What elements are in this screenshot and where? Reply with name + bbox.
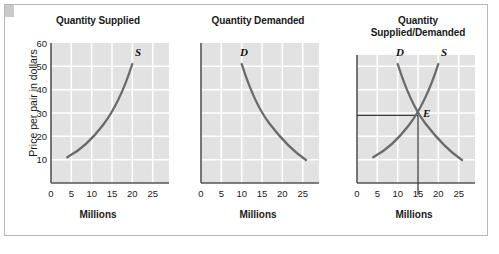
y-tick-20: 20 — [36, 131, 47, 142]
x-tick-0: 0 — [198, 188, 203, 199]
x-tick-0: 0 — [48, 188, 53, 199]
plot-area: D S E 0 5 10 15 20 25 — [335, 15, 493, 227]
x-tick-25: 25 — [453, 188, 464, 199]
x-axis-label: Millions — [179, 209, 337, 220]
x-axis-label: Millions — [335, 209, 493, 220]
x-tick-25: 25 — [297, 188, 308, 199]
panel-quantity-supplied: Quantity Supplied — [19, 15, 177, 227]
x-tick-5: 5 — [375, 188, 380, 199]
x-axis-label: Millions — [19, 209, 177, 220]
panel-quantity-demanded: Quantity Demanded — [179, 15, 337, 227]
x-tick-15: 15 — [257, 188, 268, 199]
x-tick-5: 5 — [219, 188, 224, 199]
plot-area: S 60 50 40 30 20 10 0 5 10 15 20 25 — [19, 15, 177, 227]
x-tick-10: 10 — [86, 188, 97, 199]
plot-background — [357, 55, 475, 183]
x-tick-10: 10 — [392, 188, 403, 199]
curve-label-d: D — [239, 46, 248, 58]
y-tick-10: 10 — [36, 154, 47, 165]
chart-svg: D 0 5 10 15 20 25 — [179, 15, 337, 227]
y-tick-30: 30 — [36, 108, 47, 119]
x-tick-20: 20 — [277, 188, 288, 199]
y-tick-50: 50 — [36, 61, 47, 72]
y-tick-60: 60 — [36, 38, 47, 49]
curve-label-s: S — [441, 46, 447, 58]
chart-svg: D S E 0 5 10 15 20 25 — [335, 15, 493, 227]
x-tick-15: 15 — [107, 188, 118, 199]
curve-label-d: D — [395, 46, 404, 58]
corner-marker — [5, 5, 14, 17]
x-tick-20: 20 — [433, 188, 444, 199]
panel-quantity-supplied-demanded: Quantity Supplied/Demanded — [335, 15, 493, 227]
chart-svg: S 60 50 40 30 20 10 0 5 10 15 20 25 — [19, 15, 177, 227]
x-tick-25: 25 — [147, 188, 158, 199]
x-tick-10: 10 — [236, 188, 247, 199]
curve-label-s: S — [135, 46, 141, 58]
x-tick-15: 15 — [413, 188, 424, 199]
y-tick-40: 40 — [36, 84, 47, 95]
equilibrium-label-e: E — [422, 107, 430, 119]
x-tick-0: 0 — [354, 188, 359, 199]
figure-frame: Price per pair in dollars Quantity Suppl… — [4, 4, 488, 236]
x-tick-5: 5 — [69, 188, 74, 199]
x-tick-20: 20 — [127, 188, 138, 199]
plot-area: D 0 5 10 15 20 25 — [179, 15, 337, 227]
